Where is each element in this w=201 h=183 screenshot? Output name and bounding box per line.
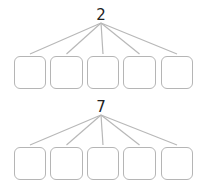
answer-box[interactable] [161,147,193,180]
root-number: 2 [86,7,116,23]
answer-box[interactable] [14,147,46,180]
answer-box[interactable] [123,56,156,89]
answer-box[interactable] [123,147,156,180]
answer-box[interactable] [14,56,46,89]
answer-box[interactable] [161,56,193,89]
answer-box[interactable] [50,56,83,89]
answer-box[interactable] [87,147,119,180]
answer-box[interactable] [87,56,119,89]
root-number: 7 [86,99,116,115]
answer-box[interactable] [50,147,83,180]
